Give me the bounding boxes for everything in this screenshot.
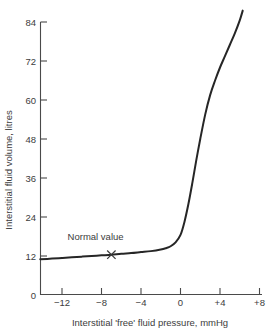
y-tick-label-60: 60 <box>25 95 36 106</box>
data-curve <box>40 11 242 260</box>
y-axis-title: Interstitial fluid volume, litres <box>3 110 14 230</box>
y-tick-label-36: 36 <box>25 173 36 184</box>
x-tick-label-plus8: +8 <box>254 297 265 308</box>
x-tick-label-plus4: +4 <box>215 297 226 308</box>
y-axis-ticks <box>41 22 48 256</box>
x-axis-title: Interstitial 'free' fluid pressure, mmHg <box>72 317 228 328</box>
chart-figure: 84 72 60 48 36 24 12 0 −12 −8 −4 0 +4 +8… <box>0 0 272 335</box>
x-tick-label-minus12: −12 <box>54 297 70 308</box>
x-axis-ticks <box>62 288 260 295</box>
x-tick-label-minus8: −8 <box>96 297 107 308</box>
y-tick-label-48: 48 <box>25 134 36 145</box>
normal-value-label: Normal value <box>68 231 124 242</box>
y-tick-label-0: 0 <box>31 290 36 301</box>
y-tick-label-84: 84 <box>25 17 36 28</box>
pressure-volume-chart: 84 72 60 48 36 24 12 0 −12 −8 −4 0 +4 +8… <box>0 0 272 335</box>
x-tick-label-minus4: −4 <box>136 297 147 308</box>
y-tick-label-72: 72 <box>25 56 36 67</box>
y-tick-label-24: 24 <box>25 212 36 223</box>
y-tick-label-12: 12 <box>25 251 36 262</box>
x-tick-label-0: 0 <box>178 297 183 308</box>
